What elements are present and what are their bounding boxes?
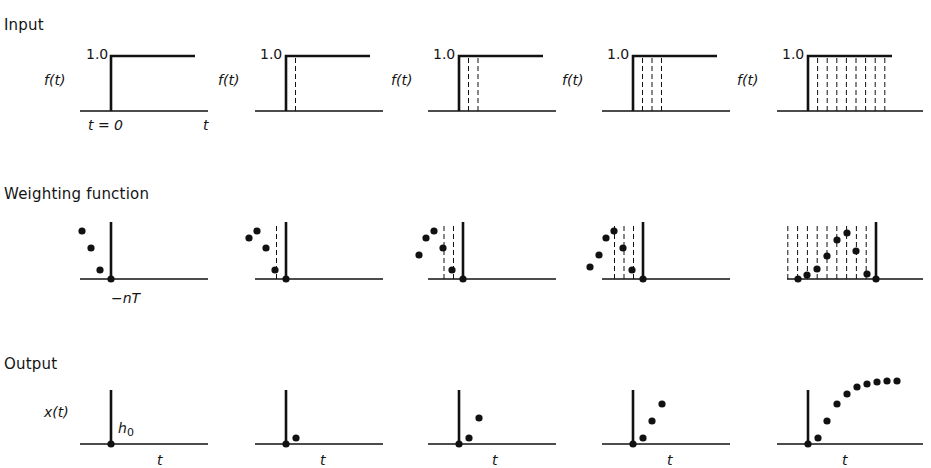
weighting-sample-dot xyxy=(422,234,429,241)
weighting-sample-dot xyxy=(430,227,437,234)
output-row-plots xyxy=(80,377,923,447)
output-sample-dot xyxy=(107,440,114,447)
output-sample-dot xyxy=(639,434,646,441)
weighting-sample-dot xyxy=(96,266,103,273)
step-function xyxy=(286,56,370,111)
output-sample-dot xyxy=(863,380,870,387)
weighting-sample-dot xyxy=(282,275,289,282)
output-sample-dot xyxy=(629,440,636,447)
weighting-row-plots xyxy=(78,222,923,283)
weighting-sample-dot xyxy=(87,244,94,251)
weighting-sample-dot xyxy=(586,263,593,270)
weighting-sample-dot xyxy=(253,227,260,234)
output-sample-dot xyxy=(455,440,462,447)
weighting-sample-dot xyxy=(872,275,879,282)
weighting-sample-dot xyxy=(271,266,278,273)
step-function xyxy=(459,56,543,111)
step-function xyxy=(808,56,892,111)
output-sample-dot xyxy=(814,434,821,441)
weighting-sample-dot xyxy=(863,270,870,277)
weighting-sample-dot xyxy=(628,266,635,273)
output-panel-4 xyxy=(602,390,730,448)
weighting-panel-1 xyxy=(78,222,208,283)
weighting-sample-dot xyxy=(843,229,850,236)
input-panel-5 xyxy=(777,56,923,111)
input-panel-4 xyxy=(602,56,730,111)
weighting-panel-2 xyxy=(245,222,383,283)
weighting-sample-dot xyxy=(262,244,269,251)
weighting-sample-dot xyxy=(107,275,114,282)
weighting-sample-dot xyxy=(439,244,446,251)
output-panel-2 xyxy=(255,390,383,448)
output-sample-dot xyxy=(658,400,665,407)
output-sample-dot xyxy=(883,377,890,384)
input-panel-1 xyxy=(80,56,208,111)
weighting-panel-4 xyxy=(586,222,730,283)
weighting-sample-dot xyxy=(852,247,859,254)
weighting-sample-dot xyxy=(595,251,602,258)
output-sample-dot xyxy=(475,414,482,421)
weighting-sample-dot xyxy=(459,275,466,282)
convolution-diagram xyxy=(0,0,931,468)
output-sample-dot xyxy=(465,434,472,441)
output-sample-dot xyxy=(833,400,840,407)
output-sample-dot xyxy=(292,434,299,441)
weighting-panel-5 xyxy=(787,222,923,283)
output-panel-3 xyxy=(428,390,556,448)
output-sample-dot xyxy=(873,378,880,385)
weighting-sample-dot xyxy=(833,236,840,243)
weighting-sample-dot xyxy=(619,244,626,251)
output-sample-dot xyxy=(648,417,655,424)
output-sample-dot xyxy=(823,417,830,424)
weighting-sample-dot xyxy=(245,234,252,241)
weighting-sample-dot xyxy=(803,271,810,278)
output-sample-dot xyxy=(804,440,811,447)
weighting-sample-dot xyxy=(610,227,617,234)
input-panel-3 xyxy=(428,56,556,111)
weighting-sample-dot xyxy=(823,252,830,259)
step-function xyxy=(633,56,717,111)
output-sample-dot xyxy=(282,440,289,447)
weighting-sample-dot xyxy=(78,227,85,234)
weighting-panel-3 xyxy=(415,222,556,283)
weighting-sample-dot xyxy=(415,251,422,258)
step-function xyxy=(111,56,195,111)
input-row-plots xyxy=(80,56,923,111)
output-panel-1 xyxy=(80,390,208,448)
output-sample-dot xyxy=(843,390,850,397)
weighting-sample-dot xyxy=(602,234,609,241)
output-sample-dot xyxy=(853,383,860,390)
output-panel-5 xyxy=(777,377,923,447)
weighting-sample-dot xyxy=(448,266,455,273)
weighting-sample-dot xyxy=(813,265,820,272)
weighting-sample-dot xyxy=(639,275,646,282)
output-sample-dot xyxy=(893,377,900,384)
weighting-sample-dot xyxy=(794,275,801,282)
input-panel-2 xyxy=(255,56,383,111)
